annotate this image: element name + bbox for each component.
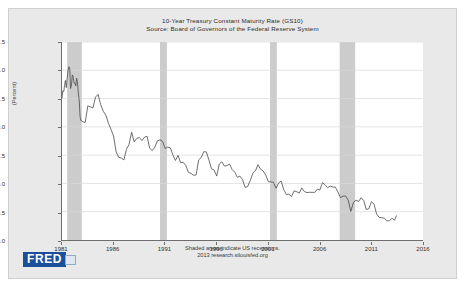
y-tick-mark (58, 42, 61, 43)
y-tick-mark (58, 70, 61, 71)
footnote-attribution: 2013 research.stlouisfed.org (9, 252, 456, 259)
grid-lines-group (62, 42, 423, 212)
y-tick-mark (58, 127, 61, 128)
footnote-recessions: Shaded areas indicate US recessions. (9, 245, 456, 252)
y-axis-label: (Percent) (11, 82, 17, 105)
y-tick-label: 10.0 (0, 124, 5, 130)
y-tick-label: 7.5 (0, 153, 5, 159)
recession-band (160, 42, 167, 240)
recession-bands-group (67, 42, 355, 240)
y-tick-label: 0.0 (0, 238, 5, 244)
recession-band (340, 42, 355, 240)
y-tick-label: 5.0 (0, 181, 5, 187)
fred-logo: FRED (23, 252, 66, 267)
y-tick-label: 17.5 (0, 39, 5, 45)
plot-wrapper: 0.02.55.07.510.012.515.017.5 19811986199… (61, 42, 423, 241)
chart-source-line: Source: Board of Governors of the Federa… (9, 25, 456, 33)
y-tick-mark (58, 184, 61, 185)
y-tick-label: 12.5 (0, 96, 5, 102)
chart-title: 10-Year Treasury Constant Maturity Rate … (9, 17, 456, 25)
fred-chart-figure: 10-Year Treasury Constant Maturity Rate … (8, 8, 457, 279)
title-block: 10-Year Treasury Constant Maturity Rate … (9, 17, 456, 33)
y-tick-mark (58, 99, 61, 100)
y-tick-mark (58, 213, 61, 214)
recession-band (67, 42, 82, 240)
y-tick-label: 15.0 (0, 67, 5, 73)
y-tick-mark (58, 156, 61, 157)
plot-area (61, 42, 423, 241)
y-tick-label: 2.5 (0, 210, 5, 216)
fred-logo-mark-icon (65, 255, 76, 265)
recession-band (270, 42, 277, 240)
chart-svg (62, 42, 423, 240)
